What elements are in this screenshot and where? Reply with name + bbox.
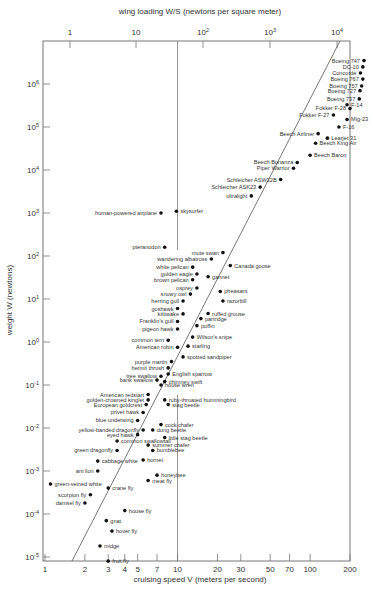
svg-text:damsel fly: damsel fly [56,500,81,506]
data-point: puffin [195,323,214,329]
svg-text:house fly: house fly [129,508,152,514]
svg-text:DC-10: DC-10 [343,64,359,70]
svg-text:100: 100 [27,337,39,347]
svg-text:white pelican: white pelican [155,264,188,270]
data-point: meat fly [146,478,172,484]
data-point: brown pelican [154,277,194,283]
data-point: Piper Warrior [257,165,296,171]
data-point: bank swallow [120,377,159,383]
data-points: Boeing 747DC-10ConcordeBoeing 767Boeing … [49,58,368,565]
data-point: green dragonfly [74,447,119,453]
svg-text:English sparrow: English sparrow [172,371,213,377]
data-point: Boeing 747 [332,58,366,64]
data-point: stag beetle [166,402,199,408]
svg-text:blue underwing: blue underwing [96,417,134,423]
svg-text:gnat: gnat [110,518,121,524]
data-point: gannet [206,274,229,280]
svg-text:10-4: 10-4 [25,509,39,519]
data-point: gnat [104,518,121,524]
svg-text:10: 10 [132,28,141,37]
data-point: hornet [141,457,163,463]
svg-text:Piper Warrior: Piper Warrior [257,165,290,171]
data-point: Beech Baron [308,152,346,158]
svg-text:5: 5 [135,565,140,574]
svg-text:fruit fly: fruit fly [112,558,129,564]
svg-text:European goldcrest: European goldcrest [94,402,143,408]
data-point: mute swan [192,250,225,256]
svg-text:bumblebee: bumblebee [157,447,185,453]
data-point: spotted sandpiper [181,354,231,360]
data-point: snowy owl [161,291,193,297]
svg-text:Fokker F-28: Fokker F-28 [316,105,346,111]
data-point: Franklin's gull [140,318,180,324]
svg-text:partridge: partridge [205,316,227,322]
svg-text:3: 3 [106,565,111,574]
svg-text:50: 50 [266,565,275,574]
data-point: Fokker F-27 [299,112,335,118]
data-point: ultralight [226,193,253,199]
data-point: common tern [132,337,170,343]
svg-text:pteranodon: pteranodon [132,244,160,250]
data-point: purple martin [135,359,173,365]
svg-text:spotted sandpiper: spotted sandpiper [187,354,232,360]
svg-text:105: 105 [27,122,39,132]
svg-text:ultralight: ultralight [226,193,248,199]
svg-text:ant lion: ant lion [76,468,94,474]
svg-text:104: 104 [27,165,39,175]
svg-text:pheasant: pheasant [224,288,247,294]
data-point: herring gull [151,298,184,304]
data-point: dung beetle [151,427,186,433]
svg-text:20: 20 [213,565,222,574]
data-point: pteranodon [132,244,166,250]
flight-scaling-chart: 123457102030507010020010-510-410-310-210… [0,0,373,596]
svg-text:mute swan: mute swan [192,250,219,256]
svg-text:30: 30 [236,565,245,574]
data-point: partridge [199,316,227,322]
svg-text:Canada goose: Canada goose [234,263,270,269]
svg-text:102: 102 [197,27,209,37]
svg-text:200: 200 [343,565,357,574]
svg-text:kittiwake: kittiwake [158,311,179,317]
svg-text:human-powered airplane: human-powered airplane [95,210,157,216]
data-point: white pelican [155,264,194,270]
svg-text:eyed hawk: eyed hawk [107,432,134,438]
data-point: scorpion fly [58,492,92,498]
data-point: Boeing 767 [331,76,365,82]
data-point: American robin [136,344,179,350]
data-point: pheasant [218,288,247,294]
svg-text:2: 2 [83,565,88,574]
svg-text:Boeing 727: Boeing 727 [328,88,356,94]
svg-text:snowy owl: snowy owl [161,291,187,297]
data-point: midge [98,543,119,549]
svg-text:brown pelican: brown pelican [154,277,189,283]
svg-text:Mig-23: Mig-23 [351,116,368,122]
svg-text:F-16: F-16 [343,124,355,130]
data-point: pigeon hawk [142,326,179,332]
svg-text:Schleicher ASK23: Schleicher ASK23 [211,184,256,190]
reference-lines [72,41,340,561]
data-point: green-veined white [49,481,102,487]
data-point: cabbage white [96,458,138,464]
svg-text:102: 102 [27,251,39,261]
svg-text:wandering albatross: wandering albatross [156,256,207,262]
svg-text:4: 4 [123,565,128,574]
svg-text:10-5: 10-5 [25,552,39,562]
svg-text:American robin: American robin [136,344,174,350]
svg-text:midge: midge [104,543,119,549]
svg-text:hover fly: hover fly [116,528,137,534]
data-point: Mig-23 [345,116,368,122]
data-point: English sparrow [166,371,213,377]
data-point: DC-10 [343,64,365,70]
svg-text:meat fly: meat fly [152,478,172,484]
data-point: house wren [159,382,194,388]
data-point: hermit thrush [132,365,170,371]
data-point: kittiwake [158,311,185,317]
svg-text:70: 70 [285,565,294,574]
svg-text:gannet: gannet [212,274,230,280]
svg-text:Boeing 747: Boeing 747 [332,58,360,64]
data-point: Beech Airliner [280,131,320,137]
svg-text:Beech King Air: Beech King Air [320,140,357,146]
svg-text:crane fly: crane fly [112,485,133,491]
svg-text:Fokker F-27: Fokker F-27 [299,112,329,118]
svg-text:dung beetle: dung beetle [157,427,186,433]
